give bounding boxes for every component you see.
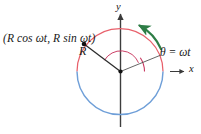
radius-line [84,44,121,72]
origin-marker [118,69,122,73]
y-axis-label: y [116,2,121,13]
angle-arc-outer [140,58,144,72]
circular-motion-figure: (R cos ωt, R sin ωt) R θ = ωt x y [0,0,201,134]
angle-arc-inner [105,51,139,63]
x-axis-label: x [189,64,194,75]
angle-label: θ = ωt [160,47,190,59]
theta-leader-line [121,55,162,72]
point-coordinates-label: (R cos ωt, R sin ωt) [3,33,95,45]
rotation-arrow [140,26,162,50]
figure-canvas [0,0,201,134]
radius-label: R [79,45,86,57]
